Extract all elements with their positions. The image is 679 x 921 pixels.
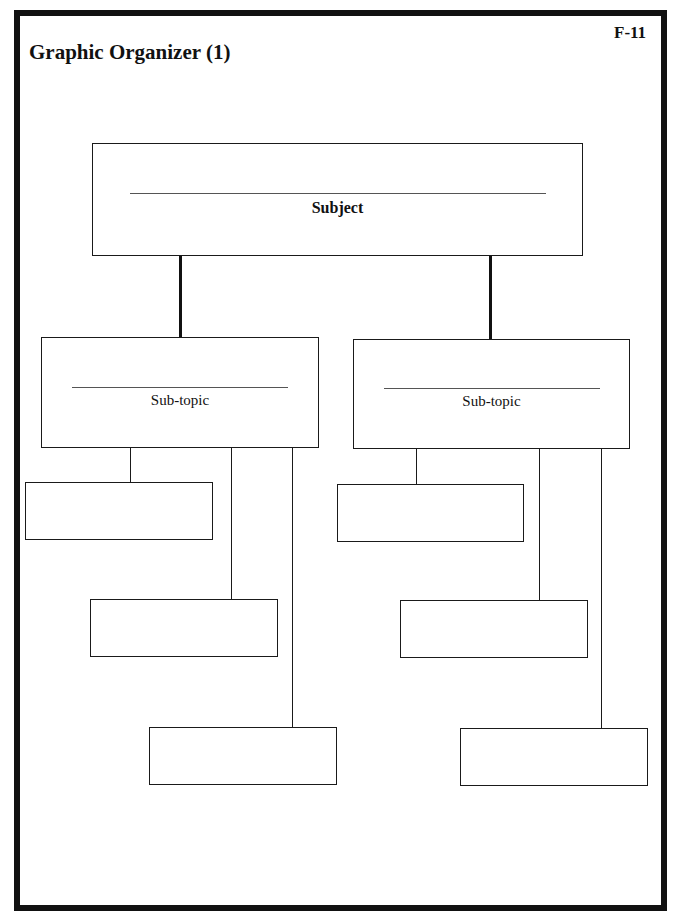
connector-subtopic-2-detail-3 (601, 449, 602, 729)
subtopic-1-detail-box-3[interactable] (149, 727, 337, 785)
connector-subject-subtopic-2 (489, 256, 492, 339)
page-title: Graphic Organizer (1) (29, 40, 230, 65)
subject-answer-line[interactable] (130, 193, 546, 194)
subtopic-2-label: Sub-topic (354, 393, 629, 410)
page-code: F-11 (614, 23, 646, 43)
connector-subtopic-2-detail-2 (539, 449, 540, 601)
connector-subtopic-1-detail-3 (292, 448, 293, 728)
subject-label: Subject (93, 199, 582, 217)
subtopic-1-label: Sub-topic (42, 392, 318, 409)
subject-box[interactable]: Subject (92, 143, 583, 256)
connector-subject-subtopic-1 (179, 256, 182, 338)
connector-subtopic-2-detail-1 (416, 449, 417, 485)
connector-subtopic-1-detail-2 (231, 448, 232, 600)
subtopic-1-answer-line[interactable] (72, 387, 288, 388)
subtopic-2-answer-line[interactable] (384, 388, 600, 389)
subtopic-2-detail-box-1[interactable] (337, 484, 524, 542)
subtopic-1-detail-box-2[interactable] (90, 599, 278, 657)
subtopic-box-1[interactable]: Sub-topic (41, 337, 319, 448)
subtopic-1-detail-box-1[interactable] (25, 482, 213, 540)
subtopic-2-detail-box-3[interactable] (460, 728, 648, 786)
subtopic-2-detail-box-2[interactable] (400, 600, 588, 658)
connector-subtopic-1-detail-1 (130, 448, 131, 483)
subtopic-box-2[interactable]: Sub-topic (353, 339, 630, 449)
